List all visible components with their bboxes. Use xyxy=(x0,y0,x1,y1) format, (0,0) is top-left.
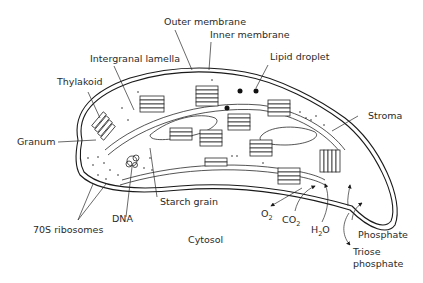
label-o2: O2 xyxy=(261,208,273,222)
label-granum: Granum xyxy=(17,136,55,147)
granum-right xyxy=(320,150,340,172)
outer-membrane xyxy=(76,68,397,230)
intergranal-lamellae xyxy=(105,104,345,185)
label-h2o: H2O xyxy=(311,224,330,238)
label-cytosol: Cytosol xyxy=(188,234,223,245)
granum-left xyxy=(92,112,116,140)
chloroplast-diagram: Outer membrane Inner membrane Lipid drop… xyxy=(0,0,423,283)
label-inner-membrane: Inner membrane xyxy=(210,29,290,40)
label-starch-grain: Starch grain xyxy=(160,196,218,207)
grana-stacks xyxy=(92,86,340,184)
dna xyxy=(126,155,139,168)
label-dna: DNA xyxy=(112,213,133,224)
lipid-droplets xyxy=(225,89,259,111)
label-lipid-droplet: Lipid droplet xyxy=(270,51,330,62)
label-phosphate: Phosphate xyxy=(358,229,408,240)
label-intergranal-lamella: Intergranal lamella xyxy=(90,53,180,64)
label-outer-membrane: Outer membrane xyxy=(164,16,246,27)
label-triose-phosphate-line1: Triose xyxy=(352,246,381,257)
label-thylakoid: Thylakoid xyxy=(56,76,103,87)
label-stroma: Stroma xyxy=(368,110,402,121)
label-ribosomes: 70S ribosomes xyxy=(33,224,103,235)
label-triose-phosphate-line2: phosphate xyxy=(353,258,403,269)
label-co2: CO2 xyxy=(282,214,300,228)
